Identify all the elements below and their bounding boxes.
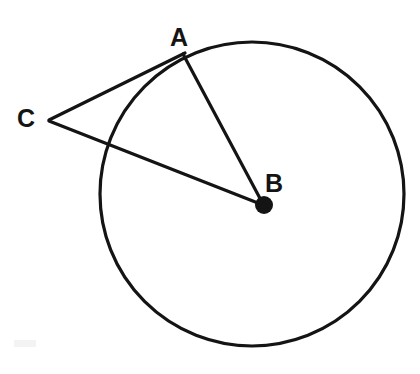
point-b-marker: [255, 196, 273, 214]
geometry-diagram: A B C: [0, 0, 420, 374]
circle-shape: [100, 42, 404, 346]
point-b-label: B: [265, 171, 283, 196]
point-c-label: C: [17, 106, 35, 131]
segment-c-a: [49, 53, 185, 120]
segment-c-b: [49, 121, 263, 205]
segment-a-b: [183, 54, 263, 204]
geometry-canvas: [0, 0, 420, 374]
scan-speck-artifact: [14, 340, 36, 347]
point-a-label: A: [170, 25, 188, 50]
